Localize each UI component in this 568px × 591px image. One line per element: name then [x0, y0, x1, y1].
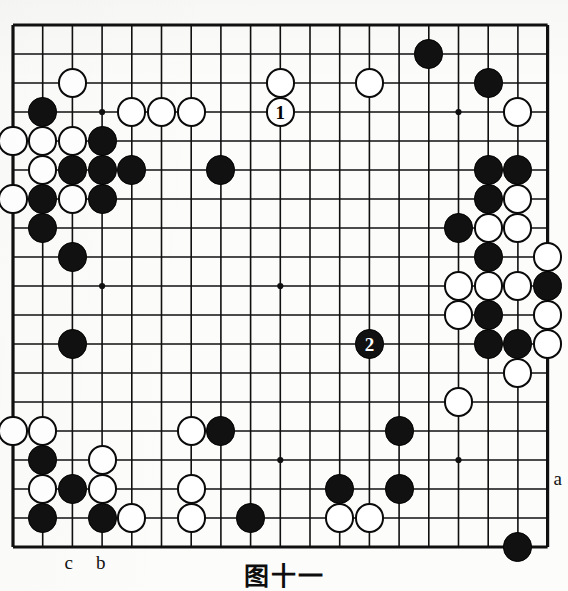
white-stone[interactable] — [28, 126, 57, 155]
black-stone[interactable] — [88, 126, 117, 155]
move-stone-2[interactable] — [355, 329, 384, 358]
white-stone[interactable] — [533, 329, 562, 358]
white-stone[interactable] — [503, 213, 532, 242]
black-stone[interactable] — [474, 300, 503, 329]
white-stone[interactable] — [0, 126, 28, 155]
black-stone[interactable] — [117, 155, 146, 184]
white-stone[interactable] — [88, 474, 117, 503]
black-stone[interactable] — [444, 213, 473, 242]
black-stone[interactable] — [58, 474, 87, 503]
white-stone[interactable] — [503, 358, 532, 387]
white-stone[interactable] — [177, 416, 206, 445]
white-stone[interactable] — [58, 68, 87, 97]
white-stone[interactable] — [444, 271, 473, 300]
white-stone[interactable] — [533, 300, 562, 329]
black-stone[interactable] — [474, 155, 503, 184]
white-stone[interactable] — [177, 503, 206, 532]
black-stone[interactable] — [533, 271, 562, 300]
white-stone[interactable] — [0, 416, 28, 445]
black-stone[interactable] — [88, 155, 117, 184]
black-stone[interactable] — [503, 329, 532, 358]
black-stone[interactable] — [28, 503, 57, 532]
black-stone[interactable] — [474, 329, 503, 358]
go-board[interactable]: 12 abc — [0, 0, 568, 560]
white-stone[interactable] — [503, 97, 532, 126]
black-stone[interactable] — [28, 213, 57, 242]
black-stone[interactable] — [28, 445, 57, 474]
black-stone[interactable] — [474, 242, 503, 271]
black-stone[interactable] — [58, 242, 87, 271]
white-stone[interactable] — [177, 474, 206, 503]
black-stone[interactable] — [325, 474, 354, 503]
move-stone-1[interactable] — [266, 97, 295, 126]
white-stone[interactable] — [177, 97, 206, 126]
black-stone[interactable] — [28, 184, 57, 213]
black-stone[interactable] — [236, 503, 265, 532]
black-stone[interactable] — [58, 155, 87, 184]
black-stone[interactable] — [503, 155, 532, 184]
white-stone[interactable] — [474, 271, 503, 300]
white-stone[interactable] — [474, 213, 503, 242]
white-stone[interactable] — [533, 242, 562, 271]
black-stone[interactable] — [474, 184, 503, 213]
coord-label-a: a — [554, 469, 562, 488]
white-stone[interactable] — [117, 503, 146, 532]
white-stone[interactable] — [325, 503, 354, 532]
black-stone[interactable] — [206, 155, 235, 184]
white-stone[interactable] — [0, 184, 28, 213]
black-stone[interactable] — [88, 503, 117, 532]
white-stone[interactable] — [28, 155, 57, 184]
white-stone[interactable] — [147, 97, 176, 126]
black-stone[interactable] — [206, 416, 235, 445]
white-stone[interactable] — [58, 126, 87, 155]
black-stone[interactable] — [474, 68, 503, 97]
black-stone[interactable] — [385, 474, 414, 503]
white-stone[interactable] — [88, 445, 117, 474]
go-problem-figure: 12 abc 图十一 — [0, 0, 568, 591]
black-stone[interactable] — [28, 97, 57, 126]
white-stone[interactable] — [28, 474, 57, 503]
black-stone[interactable] — [88, 184, 117, 213]
white-stone[interactable] — [503, 271, 532, 300]
white-stone[interactable] — [266, 68, 295, 97]
black-stone[interactable] — [58, 329, 87, 358]
white-stone[interactable] — [444, 387, 473, 416]
white-stone[interactable] — [503, 184, 532, 213]
figure-caption: 图十一 — [0, 556, 568, 591]
white-stone[interactable] — [444, 300, 473, 329]
white-stone[interactable] — [117, 97, 146, 126]
white-stone[interactable] — [58, 184, 87, 213]
white-stone[interactable] — [355, 503, 384, 532]
black-stone[interactable] — [385, 416, 414, 445]
black-stone[interactable] — [414, 39, 443, 68]
white-stone[interactable] — [28, 416, 57, 445]
white-stone[interactable] — [355, 68, 384, 97]
